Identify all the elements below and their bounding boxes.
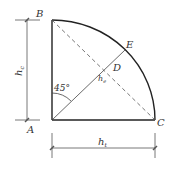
label-e: E <box>125 39 134 50</box>
label-c: C <box>157 117 165 128</box>
bottom-dimension-label: ht <box>98 136 107 148</box>
angle-arc <box>52 93 71 101</box>
label-b: B <box>35 8 43 19</box>
left-dimension-label: hc <box>13 66 25 76</box>
quarter-circle-diagram: B A C E D 45° he hc ht <box>0 0 172 174</box>
diagonal-label: he <box>98 74 106 84</box>
label-a: A <box>26 124 34 135</box>
angle-label: 45° <box>53 83 70 93</box>
svg-text:hc: hc <box>13 66 25 76</box>
label-d: D <box>112 62 121 73</box>
